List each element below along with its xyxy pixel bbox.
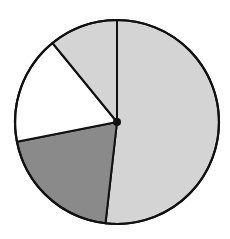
center-dot [113, 118, 121, 126]
pie-slice-1 [105, 20, 219, 224]
pie-chart [0, 0, 230, 239]
